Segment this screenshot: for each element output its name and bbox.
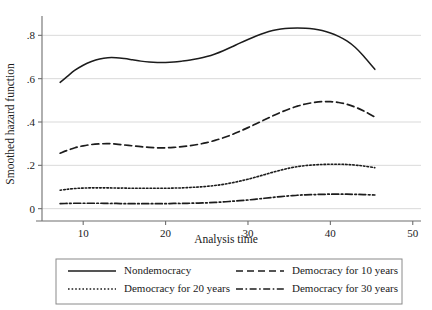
y-tick-label-0: 0 [30, 203, 36, 215]
x-axis-title: Analysis time [194, 233, 258, 246]
legend-label-0: Nondemocracy [124, 264, 192, 276]
y-tick-label-4: .8 [27, 29, 36, 41]
x-tick-label-0: 10 [78, 227, 90, 239]
y-tick-label-1: .2 [27, 159, 35, 171]
x-tick-label-3: 40 [325, 227, 337, 239]
legend-label-3: Democracy for 30 years [292, 282, 398, 294]
x-tick-label-4: 50 [407, 227, 419, 239]
y-tick-label-3: .6 [27, 73, 36, 85]
chart-figure: 0.2.4.6.8 1020304050 Smoothed hazard fun… [0, 0, 432, 310]
y-axis-title: Smoothed hazard function [4, 63, 16, 185]
legend-label-2: Democracy for 20 years [124, 282, 230, 294]
y-tick-label-2: .4 [27, 116, 36, 128]
chart-legend: NondemocracyDemocracy for 10 yearsDemocr… [56, 259, 402, 304]
hazard-function-chart: 0.2.4.6.8 1020304050 Smoothed hazard fun… [0, 0, 432, 310]
legend-label-1: Democracy for 10 years [292, 264, 398, 276]
x-tick-label-1: 20 [160, 227, 172, 239]
